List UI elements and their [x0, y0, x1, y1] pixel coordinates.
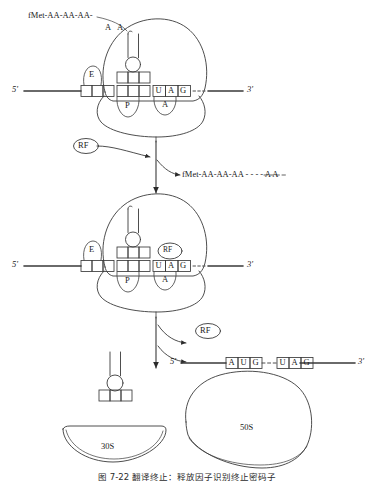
stage2-psite-trna-anticodon — [117, 247, 150, 258]
stage2-stop-codon-base-3: G — [180, 261, 186, 270]
stage3-stop-codon-base-2: A — [292, 358, 298, 367]
figure-caption: 图 7-22 翻译终止：释放因子识别终止密码子 — [0, 470, 374, 481]
stage2-five-prime-label: 5' — [12, 260, 18, 269]
step2-rf-label: RF — [200, 326, 210, 335]
stage3-start-codon-base-1: A — [229, 358, 235, 367]
stage2-a-site-label: A — [162, 275, 168, 284]
released-peptide-label: fMet-AA-AA-AA - - - - A A — [182, 170, 278, 179]
stage1-stop-codon-base-2: A — [168, 86, 174, 95]
stage1-p-site-label: P — [125, 101, 130, 110]
step1-arrows — [97, 141, 180, 193]
stage3-free-trna — [99, 352, 132, 401]
stage3-50s-label: 50S — [240, 423, 253, 432]
stage2-stop-codon-base-1: U — [156, 261, 162, 270]
stage3-five-prime-label: 5' — [170, 357, 176, 366]
stage1-e-site-label: E — [89, 70, 94, 79]
stage3-start-codon-base-2: U — [241, 358, 247, 367]
diagram-vector-layer — [0, 0, 374, 481]
stage1-five-prime-label: 5' — [12, 85, 18, 94]
stage2-stop-codon-base-2: A — [168, 261, 174, 270]
stage3-50s-shape — [186, 371, 312, 468]
figure-canvas: fMet-AA-AA-AA- A A 5' 3' E P A U A G RF … — [0, 0, 374, 481]
stage1-psite-trna-body — [126, 31, 141, 72]
stage2-e-site-label: E — [89, 245, 94, 254]
stage1-ribosome-body — [97, 19, 207, 137]
stage2-rf-label: RF — [163, 246, 172, 254]
stage1-a-site-label: A — [162, 100, 168, 109]
stage3-start-codon-base-3: G — [253, 358, 259, 367]
stage1-psite-trna-anticodon — [117, 72, 150, 83]
stage2-three-prime-label: 3' — [247, 260, 253, 269]
stage1-amino-acid-1: A — [105, 23, 111, 32]
step1-rf-label: RF — [78, 141, 88, 150]
stage1-stop-codon-base-1: U — [156, 86, 162, 95]
stage1-three-prime-label: 3' — [247, 85, 253, 94]
stage3-three-prime-label: 3' — [358, 357, 364, 366]
stage1-amino-acid-2: A — [117, 23, 123, 32]
stage2-ribosome-body — [97, 194, 207, 312]
stage3-stop-codon-base-1: U — [280, 358, 286, 367]
stage3-30s-label: 30S — [101, 442, 114, 451]
stage3-stop-codon-base-3: G — [304, 358, 310, 367]
stage3-30s-shape — [63, 426, 166, 462]
stage2-psite-trna-body — [126, 206, 141, 247]
stage1-stop-codon-base-3: G — [180, 86, 186, 95]
stage1-peptide-label: fMet-AA-AA-AA- — [28, 11, 93, 20]
stage2-p-site-label: P — [125, 276, 130, 285]
